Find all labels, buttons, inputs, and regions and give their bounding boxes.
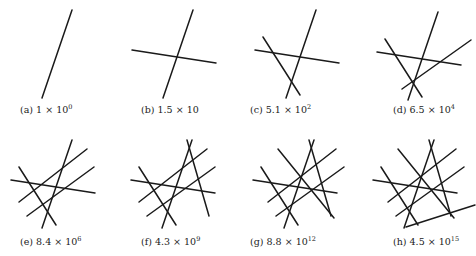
panel-b bbox=[132, 10, 216, 98]
panel-h-line-4 bbox=[388, 149, 456, 202]
caption-exponent: 9 bbox=[196, 235, 200, 243]
caption-label: (g) bbox=[250, 236, 264, 247]
caption-label: (f) bbox=[141, 236, 152, 247]
caption-b: (b) 1.5 × 10 bbox=[141, 104, 199, 115]
caption-g: (g) 8.8 × 1012 bbox=[250, 236, 316, 247]
caption-label: (e) bbox=[20, 236, 33, 247]
caption-mantissa: 1 × 10 bbox=[36, 104, 68, 115]
panel-b-line-2 bbox=[132, 50, 216, 63]
caption-exponent: 0 bbox=[68, 103, 72, 111]
caption-mantissa: 8.8 × 10 bbox=[267, 236, 308, 247]
panel-a bbox=[42, 10, 72, 98]
panel-h-line-8 bbox=[406, 205, 475, 227]
panel-g bbox=[253, 140, 344, 228]
panel-f-line-1 bbox=[162, 140, 192, 228]
caption-label: (h) bbox=[393, 236, 407, 247]
caption-exponent: 6 bbox=[77, 235, 81, 243]
panel-g-line-5 bbox=[276, 167, 344, 216]
caption-label: (c) bbox=[250, 104, 263, 115]
panel-c-line-1 bbox=[286, 10, 316, 98]
caption-exponent: 2 bbox=[307, 103, 311, 111]
caption-label: (a) bbox=[20, 104, 33, 115]
caption-e: (e) 8.4 × 106 bbox=[20, 236, 81, 247]
caption-label: (d) bbox=[393, 104, 407, 115]
panel-h-line-5 bbox=[396, 167, 464, 216]
caption-mantissa: 4.5 × 10 bbox=[410, 236, 451, 247]
panel-d-line-2 bbox=[377, 52, 461, 65]
panel-g-line-1 bbox=[284, 140, 314, 228]
caption-label: (b) bbox=[141, 104, 155, 115]
caption-exponent: 4 bbox=[451, 103, 455, 111]
caption-a: (a) 1 × 100 bbox=[20, 104, 72, 115]
caption-exponent: 15 bbox=[451, 235, 459, 243]
caption-mantissa: 4.3 × 10 bbox=[155, 236, 196, 247]
caption-exponent: 12 bbox=[308, 235, 316, 243]
panel-e bbox=[11, 140, 95, 228]
line-arrangement-figure bbox=[0, 0, 476, 256]
panel-h bbox=[373, 140, 475, 228]
panel-g-line-3 bbox=[261, 167, 298, 225]
panel-f bbox=[131, 140, 215, 228]
caption-mantissa: 5.1 × 10 bbox=[266, 104, 307, 115]
panel-g-line-4 bbox=[268, 149, 336, 202]
panel-e-line-3 bbox=[19, 167, 56, 225]
panel-f-line-6 bbox=[187, 140, 209, 216]
panel-h-line-3 bbox=[381, 167, 418, 225]
panel-d bbox=[377, 12, 471, 100]
panel-e-line-2 bbox=[11, 180, 95, 193]
caption-f: (f) 4.3 × 109 bbox=[141, 236, 200, 247]
panel-e-line-1 bbox=[42, 140, 72, 228]
panel-d-line-1 bbox=[408, 12, 438, 100]
panel-c-line-2 bbox=[255, 50, 339, 63]
caption-c: (c) 5.1 × 102 bbox=[250, 104, 311, 115]
caption-mantissa: 6.5 × 10 bbox=[410, 104, 451, 115]
caption-mantissa: 8.4 × 10 bbox=[36, 236, 77, 247]
panel-b-line-1 bbox=[163, 10, 193, 98]
caption-h: (h) 4.5 × 1015 bbox=[393, 236, 459, 247]
panel-c bbox=[255, 10, 339, 98]
caption-d: (d) 6.5 × 104 bbox=[393, 104, 455, 115]
panel-c-line-3 bbox=[263, 37, 300, 95]
caption-mantissa: 1.5 × 10 bbox=[158, 104, 199, 115]
panel-a-line-1 bbox=[42, 10, 72, 98]
panel-f-line-3 bbox=[139, 167, 176, 225]
panel-h-line-1 bbox=[404, 140, 434, 228]
